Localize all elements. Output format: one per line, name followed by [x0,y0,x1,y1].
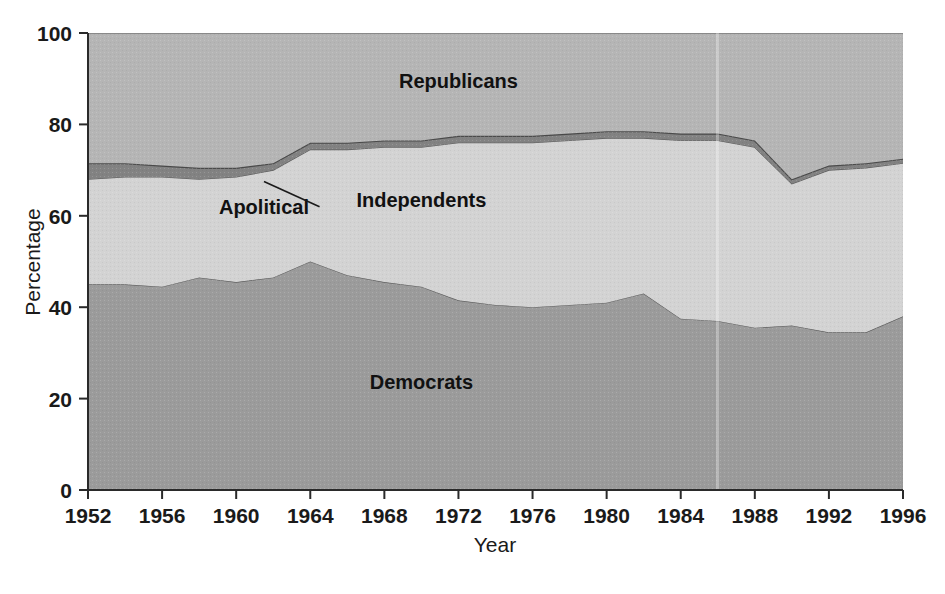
x-axis-title: Year [474,533,516,556]
x-tick-label: 1968 [361,504,408,527]
y-tick-label: 40 [49,296,72,319]
y-axis-title: Percentage [21,208,44,315]
y-tick-label: 100 [37,22,72,45]
x-tick-label: 1952 [65,504,112,527]
series-label-independents: Independents [356,189,486,211]
x-tick-label: 1996 [880,504,927,527]
x-tick-label: 1956 [139,504,186,527]
x-tick-label: 1960 [213,504,260,527]
x-tick-label: 1992 [806,504,853,527]
series-label-apolitical: Apolitical [219,196,309,218]
chart-figure: 0204060801001952195619601964196819721976… [0,0,945,594]
x-tick-label: 1988 [731,504,778,527]
y-tick-label: 60 [49,205,72,228]
series-label-democrats: Democrats [370,371,473,393]
y-tick-label: 80 [49,113,72,136]
series-label-republicans: Republicans [399,70,518,92]
x-tick-label: 1976 [509,504,556,527]
x-tick-label: 1984 [657,504,704,527]
y-tick-label: 0 [60,479,72,502]
x-tick-label: 1980 [583,504,630,527]
party-identification-stacked-area-chart: 0204060801001952195619601964196819721976… [0,0,945,594]
y-tick-label: 20 [49,388,72,411]
x-tick-label: 1972 [435,504,482,527]
paper-grain-overlay [88,33,903,490]
x-tick-label: 1964 [287,504,334,527]
scan-artifact-line [716,33,719,490]
